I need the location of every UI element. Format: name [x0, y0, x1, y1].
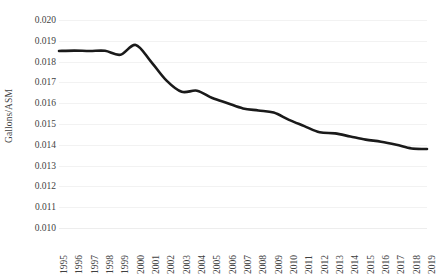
y-tick-label: 0.013 — [16, 161, 56, 171]
y-tick-label: 0.016 — [16, 98, 56, 108]
y-tick-label: 0.018 — [16, 57, 56, 67]
y-axis-title-label: Gallons/ASM — [4, 89, 14, 143]
y-tick-label: 0.019 — [16, 36, 56, 46]
y-tick-label: 0.010 — [16, 223, 56, 233]
y-tick-label: 0.020 — [16, 15, 56, 25]
series-line-gallons-per-asm — [59, 20, 427, 228]
x-axis-tick-labels: 1995199619971998199920002001200220032004… — [59, 230, 427, 278]
y-tick-label: 0.012 — [16, 181, 56, 191]
series-path — [59, 45, 427, 149]
x-tick-label: 2019 — [420, 230, 440, 276]
y-tick-label: 0.011 — [16, 202, 56, 212]
x-tick-label-text: 2019 — [427, 255, 437, 274]
y-tick-label: 0.015 — [16, 119, 56, 129]
y-tick-label: 0.014 — [16, 140, 56, 150]
gridline — [59, 228, 427, 229]
plot-area — [59, 20, 427, 228]
y-axis-tick-labels: 0.0100.0110.0120.0130.0140.0150.0160.017… — [16, 0, 56, 248]
y-tick-label: 0.017 — [16, 77, 56, 87]
